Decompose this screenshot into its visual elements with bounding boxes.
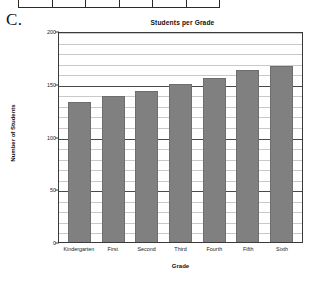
x-tick-label: Fifth: [231, 246, 265, 258]
bar[interactable]: [68, 102, 91, 242]
x-axis-ticks: KindergartenFirstSecondThirdFourthFifthS…: [58, 246, 303, 258]
bar[interactable]: [169, 84, 192, 242]
bar[interactable]: [236, 70, 259, 242]
bar-slot: [97, 33, 131, 242]
x-tick-label: Sixth: [265, 246, 299, 258]
y-tick-label: 200: [30, 29, 56, 35]
y-tick-label: 50: [30, 187, 56, 193]
bar-slot: [264, 33, 298, 242]
x-axis-title: Grade: [58, 263, 303, 269]
bars-layer: [59, 33, 302, 242]
bar[interactable]: [135, 91, 158, 242]
x-tick-label: Fourth: [197, 246, 231, 258]
bar[interactable]: [102, 96, 125, 242]
bar[interactable]: [270, 66, 293, 242]
x-tick-label: Second: [130, 246, 164, 258]
bar-slot: [63, 33, 97, 242]
plot-area: [58, 32, 303, 243]
x-tick-label: First: [96, 246, 130, 258]
bar-slot: [164, 33, 198, 242]
x-tick-label: Third: [164, 246, 198, 258]
y-tick-label: 150: [30, 82, 56, 88]
y-axis-ticks: 050100150200: [26, 32, 56, 243]
bar-chart-figure: Students per Grade Number of Students 05…: [0, 0, 313, 287]
y-tick-label: 0: [30, 240, 56, 246]
bar-slot: [197, 33, 231, 242]
chart-title: Students per Grade: [60, 19, 305, 26]
y-tick-label: 100: [30, 135, 56, 141]
bar-slot: [130, 33, 164, 242]
y-axis-title: Number of Students: [10, 98, 16, 168]
bar-slot: [231, 33, 265, 242]
x-tick-label: Kindergarten: [62, 246, 96, 258]
bar[interactable]: [203, 78, 226, 242]
